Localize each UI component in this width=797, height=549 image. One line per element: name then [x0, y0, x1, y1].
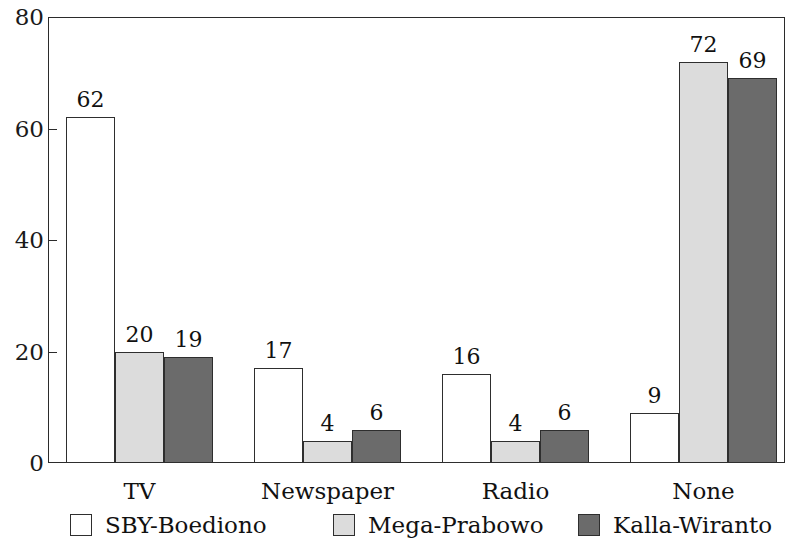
y-axis-tick-mark: [48, 352, 57, 353]
bar-value-label: 69: [708, 50, 797, 72]
bar: [540, 430, 589, 463]
chart-legend: SBY-BoedionoMega-PrabowoKalla-Wiranto: [0, 508, 797, 549]
y-axis-tick-mark: [48, 129, 57, 130]
bar: [728, 78, 777, 463]
x-axis-category-label: None: [580, 480, 797, 503]
legend-item: Mega-Prabowo: [333, 508, 544, 542]
plot-area: 622019TV1746Newspaper1646Radio97269None: [0, 0, 797, 549]
bar-value-label: 6: [520, 402, 609, 424]
bar: [164, 357, 213, 463]
legend-item: SBY-Boediono: [70, 508, 267, 542]
bar-value-label: 62: [46, 89, 135, 111]
bar: [352, 430, 401, 463]
legend-swatch-icon: [333, 514, 355, 536]
bar-chart: 020406080 622019TV1746Newspaper1646Radio…: [0, 0, 797, 549]
bar-value-label: 19: [144, 329, 233, 351]
legend-swatch-icon: [70, 514, 92, 536]
legend-label: Mega-Prabowo: [368, 514, 544, 537]
bar-value-label: 6: [332, 402, 421, 424]
bar-value-label: 16: [422, 346, 511, 368]
bar: [491, 441, 540, 463]
legend-label: Kalla-Wiranto: [613, 514, 772, 537]
bar: [630, 413, 679, 463]
bar-value-label: 17: [234, 340, 323, 362]
legend-swatch-icon: [578, 514, 600, 536]
legend-label: SBY-Boediono: [105, 514, 267, 537]
bar: [115, 352, 164, 464]
y-axis-tick-mark: [48, 240, 57, 241]
bar: [679, 62, 728, 463]
bar: [66, 117, 115, 463]
bar: [303, 441, 352, 463]
legend-item: Kalla-Wiranto: [578, 508, 772, 542]
